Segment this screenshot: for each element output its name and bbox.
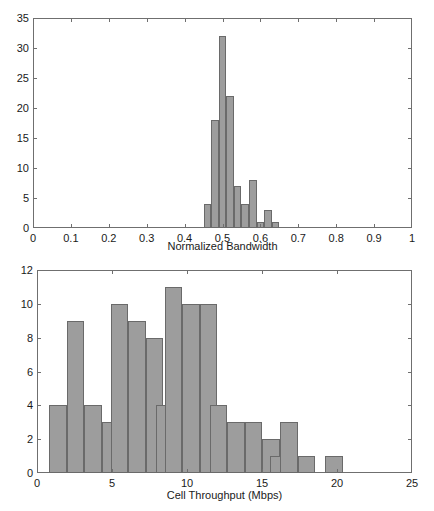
histogram-bar [227,422,245,473]
x-tick [337,270,338,274]
x-tick [336,224,337,228]
y-tick [37,439,41,440]
histogram-bar [280,422,298,473]
y-tick [408,405,412,406]
y-tick [37,372,41,373]
y-tick [33,48,37,49]
y-tick [408,138,412,139]
y-tick-label: 15 [0,132,29,144]
x-tick [112,469,113,473]
x-tick [112,270,113,274]
histogram-bar [165,287,183,473]
histogram-bar [264,210,272,228]
histogram-bar [182,304,200,473]
y-tick-label: 30 [0,42,29,54]
x-tick [223,224,224,228]
y-tick-label: 0 [0,222,29,234]
y-tick-label: 2 [3,433,33,445]
x-tick [185,224,186,228]
histogram-bar [211,120,219,228]
y-tick-label: 12 [3,264,33,276]
histogram-bar [226,96,234,228]
y-tick-label: 10 [0,162,29,174]
y-tick [408,168,412,169]
y-tick [408,18,412,19]
histogram-bar [49,405,67,473]
chart-normalized-bandwidth [33,18,412,228]
histogram-bar [234,186,242,228]
x-tick-label: 5 [92,477,132,489]
y-tick [408,48,412,49]
y-tick [408,78,412,79]
histogram-bar [204,204,212,228]
y-tick-label: 4 [3,399,33,411]
histogram-bar [245,422,263,473]
x-tick [109,18,110,22]
y-tick [408,439,412,440]
x-axis-label-top: Normalized Bandwidth [33,240,412,253]
y-tick [408,270,412,271]
y-tick [408,372,412,373]
x-tick-label: 10 [167,477,207,489]
histogram-bar [241,204,249,228]
y-tick [408,227,412,228]
x-tick [298,18,299,22]
y-tick-label: 8 [3,332,33,344]
histogram-bar [298,456,316,473]
figure-canvas: 00.10.20.30.40.50.60.70.80.91 0510152025… [0,0,434,511]
y-tick [33,138,37,139]
x-tick [336,18,337,22]
y-tick [33,168,37,169]
x-tick [185,18,186,22]
x-tick [223,18,224,22]
y-tick [408,108,412,109]
y-tick-label: 6 [3,366,33,378]
x-tick [374,224,375,228]
x-tick [337,469,338,473]
x-tick [260,18,261,22]
x-tick-label: 25 [392,477,432,489]
histogram-bar [84,405,102,473]
histogram-bar [272,222,280,228]
y-tick [37,338,41,339]
x-tick [187,469,188,473]
x-tick [374,18,375,22]
histogram-bars-bottom [37,270,412,473]
y-tick [37,472,41,473]
y-tick [33,227,37,228]
x-axis-label-bottom: Cell Throughput (Mbps) [37,489,412,502]
y-tick-label: 0 [3,467,33,479]
y-tick [37,270,41,271]
histogram-bar [325,456,343,473]
x-tick [147,224,148,228]
x-tick [262,469,263,473]
y-tick [33,18,37,19]
y-tick [37,405,41,406]
histogram-bars-top [33,18,412,228]
y-tick [37,304,41,305]
histogram-bar [67,321,85,473]
histogram-bar [219,36,227,228]
x-tick [147,18,148,22]
x-tick [262,270,263,274]
chart-cell-throughput [37,270,412,473]
y-tick [33,198,37,199]
y-tick [33,108,37,109]
y-tick [408,338,412,339]
y-tick [33,78,37,79]
x-tick-label: 15 [242,477,282,489]
x-tick-label: 20 [317,477,357,489]
y-tick-label: 20 [0,102,29,114]
y-tick-label: 10 [3,298,33,310]
histogram-bar [128,321,146,473]
x-tick [71,224,72,228]
histogram-bar [210,405,228,473]
y-tick [408,304,412,305]
histogram-bar [111,304,129,473]
x-tick [71,18,72,22]
x-tick [187,270,188,274]
y-tick [408,472,412,473]
y-tick-label: 25 [0,72,29,84]
x-tick [109,224,110,228]
y-tick-label: 35 [0,12,29,24]
